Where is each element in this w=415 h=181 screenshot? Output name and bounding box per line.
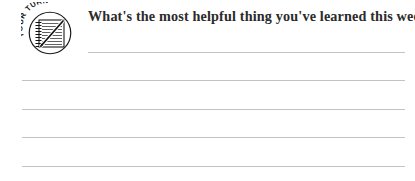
answer-line-3[interactable]	[22, 109, 405, 110]
your-turn-worksheet: YOUR TURN What's the most helpful thing …	[0, 0, 415, 181]
answer-line-4[interactable]	[22, 137, 405, 138]
answer-line-1[interactable]	[88, 52, 405, 53]
answer-lines-group	[0, 0, 415, 181]
answer-line-2[interactable]	[22, 80, 405, 81]
answer-line-5[interactable]	[22, 166, 405, 167]
